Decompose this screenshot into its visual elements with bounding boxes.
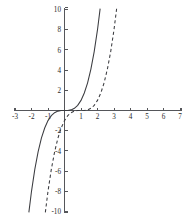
tick-labels: -3-2-11234567-10-8-6-4-2246810 <box>12 6 182 216</box>
x-tick-label: -2 <box>29 113 35 121</box>
x-tick-label: 2 <box>96 113 100 121</box>
y-tick-label: 8 <box>57 26 61 34</box>
x-tick-label: 4 <box>129 113 133 121</box>
x-tick-label: 1 <box>79 113 83 121</box>
y-tick-label: 10 <box>54 6 62 14</box>
x-tick-label: 5 <box>145 113 149 121</box>
y-tick-label: 2 <box>57 87 61 95</box>
y-tick-label: -8 <box>55 188 61 196</box>
y-tick-label: 4 <box>57 67 61 75</box>
y-tick-label: -10 <box>51 208 61 216</box>
plot-area: -3-2-11234567-10-8-6-4-2246810 <box>0 0 186 220</box>
x-tick-label: 3 <box>112 113 116 121</box>
x-tick-label: 7 <box>178 113 182 121</box>
x-tick-label: 6 <box>162 113 166 121</box>
y-tick-label: -6 <box>55 168 61 176</box>
cubic-functions-chart: -3-2-11234567-10-8-6-4-2246810 <box>0 0 186 220</box>
y-tick-label: 6 <box>57 47 61 55</box>
x-tick-label: -3 <box>12 113 18 121</box>
y-tick-label: -4 <box>55 148 61 156</box>
